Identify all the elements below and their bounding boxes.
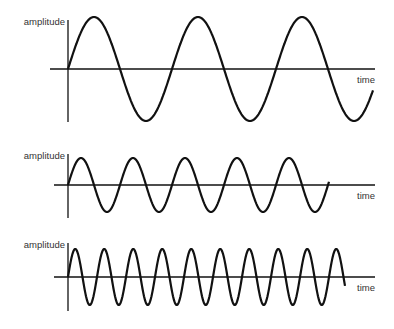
amplitude-label: amplitude (24, 16, 65, 27)
amplitude-label: amplitude (24, 239, 65, 250)
time-label: time (357, 74, 375, 85)
waveform-diagram: amplitudetimeamplitudetimeamplitudetime (0, 0, 394, 329)
time-label: time (357, 190, 375, 201)
time-label: time (357, 282, 375, 293)
amplitude-label: amplitude (24, 150, 65, 161)
